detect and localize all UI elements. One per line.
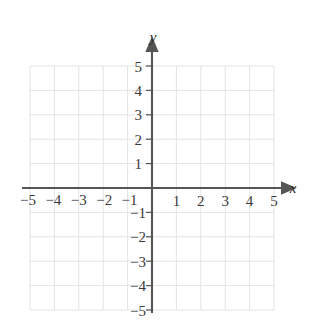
x-tick-label: 3 xyxy=(221,193,229,209)
y-tick-label: 5 xyxy=(135,59,143,75)
y-tick-label: 3 xyxy=(135,107,143,123)
x-tick-label: −3 xyxy=(71,192,87,208)
x-tick-label: −4 xyxy=(45,192,61,208)
x-tick-label: 1 xyxy=(173,193,181,209)
y-tick-label: 1 xyxy=(135,156,143,172)
x-axis-label: x xyxy=(289,180,297,196)
x-axis-tick-labels: −5 −4 −3 −2 −1 1 2 3 4 5 xyxy=(20,192,278,209)
coordinate-plane-svg: −5 −4 −3 −2 −1 1 2 3 4 5 5 4 3 2 1 −1 −2… xyxy=(0,0,314,331)
x-tick-label: 5 xyxy=(270,193,278,209)
y-tick-label: −5 xyxy=(130,303,146,319)
y-tick-label: 4 xyxy=(135,83,143,99)
y-tick-label: −2 xyxy=(130,229,146,245)
x-tick-label: 4 xyxy=(246,193,254,209)
x-tick-label: −5 xyxy=(20,192,36,208)
x-tick-label: 2 xyxy=(197,193,205,209)
y-tick-label: −1 xyxy=(130,205,146,221)
x-tick-label: −2 xyxy=(96,192,112,208)
y-tick-label: −4 xyxy=(130,278,146,294)
axis-lines xyxy=(22,50,283,313)
y-tick-label: −3 xyxy=(130,254,146,270)
coordinate-plane-figure: −5 −4 −3 −2 −1 1 2 3 4 5 5 4 3 2 1 −1 −2… xyxy=(0,0,314,331)
y-tick-label: 2 xyxy=(135,132,143,148)
y-axis-label: y xyxy=(148,29,157,45)
